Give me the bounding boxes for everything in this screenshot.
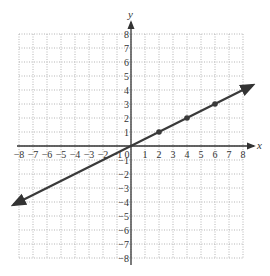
y-tick-label: −7 <box>118 239 129 250</box>
y-tick-label: 7 <box>124 43 129 54</box>
x-tick-label: −5 <box>56 149 67 160</box>
data-point <box>156 129 162 135</box>
y-tick-label: 1 <box>124 127 129 138</box>
y-tick-label: −1 <box>118 155 129 166</box>
x-tick-label: 5 <box>199 149 204 160</box>
x-tick-label: −7 <box>28 149 39 160</box>
x-tick-label: 3 <box>171 149 176 160</box>
x-tick-label: 1 <box>143 149 148 160</box>
x-tick-label: −6 <box>42 149 53 160</box>
data-point <box>212 101 218 107</box>
y-tick-label: 4 <box>124 85 129 96</box>
y-tick-label: −4 <box>118 197 129 208</box>
x-tick-label: 7 <box>227 149 232 160</box>
x-tick-label: 2 <box>157 149 162 160</box>
y-tick-label: −3 <box>118 183 129 194</box>
y-tick-label: 6 <box>124 57 129 68</box>
coordinate-plane: −8−7−6−5−4−3−2−1012345678−8−7−6−5−4−3−2−… <box>0 0 270 276</box>
x-axis-label: x <box>256 139 262 151</box>
y-tick-label: 5 <box>124 71 129 82</box>
y-tick-label: 2 <box>124 113 129 124</box>
y-tick-label: 8 <box>124 29 129 40</box>
y-tick-label: 3 <box>124 99 129 110</box>
y-axis-label: y <box>127 8 133 20</box>
x-tick-label: −4 <box>70 149 81 160</box>
x-tick-label: 6 <box>213 149 218 160</box>
y-tick-label: −8 <box>118 253 129 264</box>
x-tick-label: 8 <box>241 149 246 160</box>
y-tick-label: −5 <box>118 211 129 222</box>
data-point <box>184 115 190 121</box>
y-tick-label: −6 <box>118 225 129 236</box>
x-tick-label: 4 <box>185 149 190 160</box>
x-tick-label: −3 <box>84 149 95 160</box>
x-tick-label: −8 <box>14 149 25 160</box>
y-tick-label: −2 <box>118 169 129 180</box>
